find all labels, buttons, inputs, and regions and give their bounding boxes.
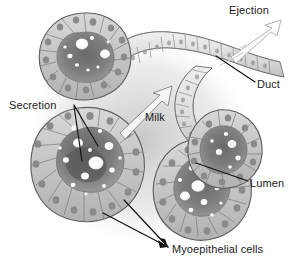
label-duct: Duct xyxy=(257,78,280,90)
label-milk: Milk xyxy=(145,111,165,123)
label-secretion: Secretion xyxy=(9,99,56,111)
label-myoepithelial-cells: Myoepithelial cells xyxy=(172,243,263,255)
label-ejection: Ejection xyxy=(229,4,269,16)
label-lumen: Lumen xyxy=(250,177,284,189)
mammary-alveolus-figure: Ejection Duct Secretion Milk Lumen Myoep… xyxy=(0,0,292,264)
alveolus-illustration xyxy=(0,0,292,264)
upper-left-lobe xyxy=(39,13,131,100)
lower-left-lobe xyxy=(30,107,144,221)
